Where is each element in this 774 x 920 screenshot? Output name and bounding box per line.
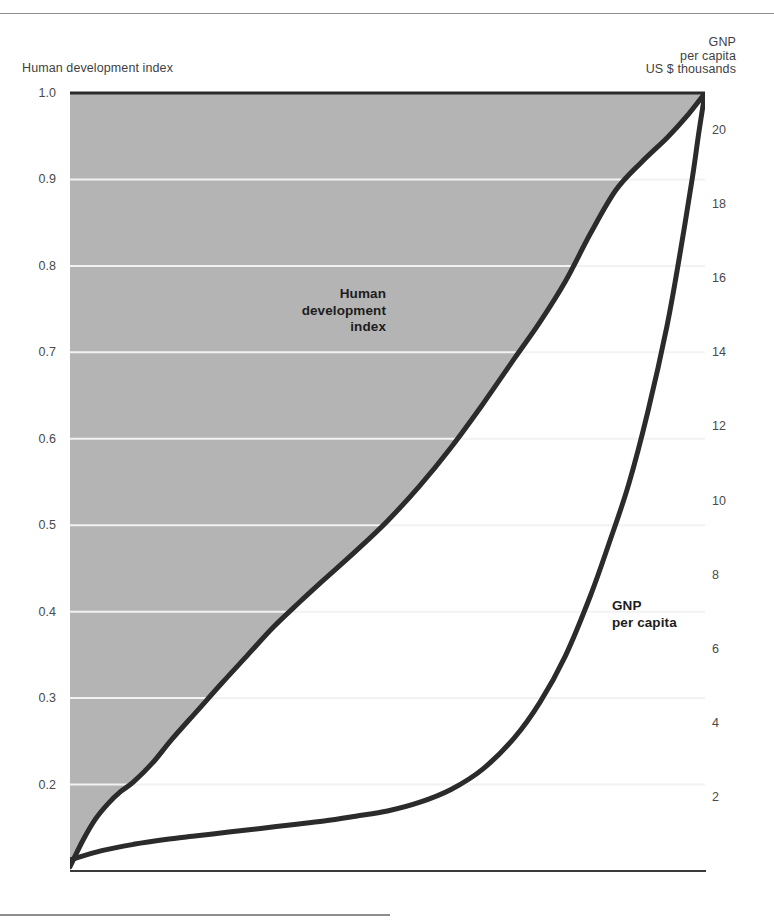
gnp-annotation-line1: GNP: [612, 598, 732, 615]
hdi-annotation-line1: Human: [266, 286, 386, 303]
plot-canvas: [0, 0, 774, 920]
hdi-annotation-line3: index: [266, 319, 386, 336]
plot-baseline-axis: [70, 870, 706, 872]
left-tick-label: 0.6: [39, 433, 56, 446]
chart-figure: Human development index GNP per capita U…: [0, 0, 774, 920]
right-tick-label: 14: [712, 346, 726, 359]
left-tick-label: 0.3: [39, 692, 56, 705]
right-tick-label: 20: [712, 124, 726, 137]
left-tick-label: 0.2: [39, 779, 56, 792]
left-tick-label: 0.7: [39, 346, 56, 359]
right-tick-label: 6: [712, 643, 719, 656]
hdi-series-annotation: Human development index: [266, 286, 386, 336]
left-tick-label: 0.4: [39, 606, 56, 619]
hdi-annotation-line2: development: [266, 303, 386, 320]
gnp-annotation-line2: per capita: [612, 615, 732, 632]
right-tick-label: 16: [712, 272, 726, 285]
left-tick-label: 0.5: [39, 519, 56, 532]
left-tick-label: 1.0: [39, 87, 56, 100]
right-tick-label: 12: [712, 420, 726, 433]
footer-divider-rule: [0, 914, 390, 916]
right-tick-label: 8: [712, 569, 719, 582]
right-tick-label: 10: [712, 495, 726, 508]
left-tick-label: 0.9: [39, 173, 56, 186]
plot-inner: [70, 93, 705, 871]
right-tick-label: 2: [712, 791, 719, 804]
left-tick-label: 0.8: [39, 260, 56, 273]
gnp-series-annotation: GNP per capita: [612, 598, 732, 631]
right-tick-label: 4: [712, 717, 719, 730]
right-tick-label: 18: [712, 198, 726, 211]
